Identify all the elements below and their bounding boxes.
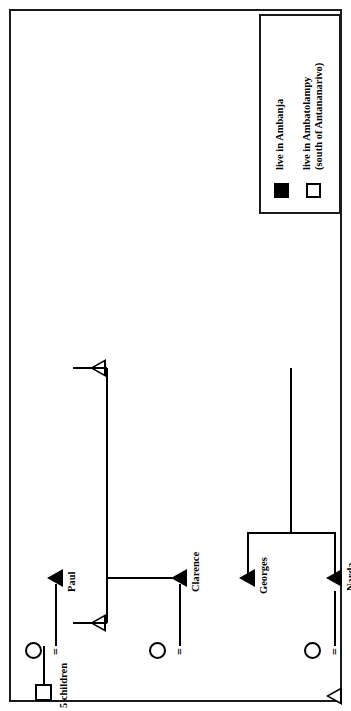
descent-line-clarence [106, 577, 172, 579]
legend-label-ambatolampy: live in Ambatolampy (south of Antananari… [301, 63, 324, 170]
descent-line-narda-father [73, 367, 107, 369]
person-symbol-narda-spouse [326, 687, 342, 705]
descent-line-paul-children [43, 646, 45, 686]
person-label-narda: Narda [345, 562, 351, 591]
person-label-clarence: Clarence [190, 552, 201, 592]
chart-frame: = Paul 5 children = Clarence Georges [9, 9, 342, 702]
union-symbol-clarence: = [176, 648, 184, 655]
legend-box: live in Ambanja live in Ambatolampy (sou… [259, 14, 341, 214]
sibship-symbol-paul-children [35, 684, 52, 701]
person-symbol-paul [47, 569, 63, 587]
sib-line-georges [247, 532, 249, 578]
sib-line-narda [334, 532, 336, 578]
union-symbol-paul: = [52, 648, 60, 655]
pedigree-canvas: = Paul 5 children = Clarence Georges [11, 11, 344, 704]
legend-label-ambanja: live in Ambanja [274, 99, 286, 170]
union-line-narda [334, 591, 336, 646]
sibship-label-paul-children: 5 children [58, 663, 69, 708]
sibship-spine-gen1 [106, 368, 108, 623]
union-line-clarence [179, 584, 181, 646]
person-symbol-paul-wife [25, 642, 42, 659]
legend-swatch-filled [274, 183, 289, 198]
union-symbol-narda: = [331, 648, 339, 655]
person-symbol-narda-partner [304, 642, 321, 659]
person-symbol-clarence [171, 569, 187, 587]
union-line-paul [55, 584, 57, 646]
descent-line-paul-father [73, 622, 107, 624]
person-symbol-clarence-wife [149, 642, 166, 659]
person-label-georges: Georges [258, 557, 269, 594]
descent-line-gen1-to-georges-narda [290, 368, 292, 534]
legend-swatch-open [306, 183, 321, 198]
person-label-paul: Paul [66, 572, 77, 592]
